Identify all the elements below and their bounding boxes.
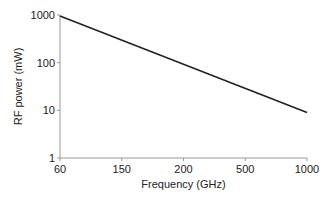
x-tick-label: 1000 — [295, 163, 319, 175]
y-tick-label: 1000 — [31, 9, 55, 21]
x-tick-label: 200 — [174, 163, 192, 175]
x-tick-label: 150 — [113, 163, 131, 175]
chart: 1101001000601502005001000Frequency (GHz)… — [0, 0, 324, 202]
x-tick-label: 500 — [236, 163, 254, 175]
y-axis-title: RF power (mW) — [12, 48, 24, 126]
axes — [57, 15, 307, 161]
y-tick-label: 100 — [37, 57, 55, 69]
x-axis-title: Frequency (GHz) — [141, 178, 225, 190]
y-tick-label: 10 — [43, 104, 55, 116]
series-line — [60, 16, 307, 112]
x-tick-label: 60 — [54, 163, 66, 175]
marks — [60, 16, 307, 112]
